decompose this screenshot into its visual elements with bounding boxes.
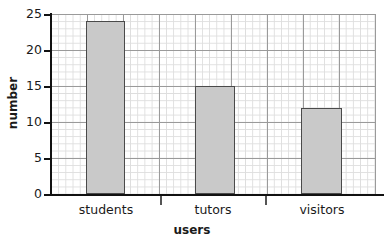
- y-tick-label-20: 20: [2, 44, 42, 56]
- x-category-label-students: students: [60, 202, 152, 217]
- y-tick-label-25: 25: [2, 8, 42, 20]
- bar-chart: 25 20 15 10 5 0 students tutors visitors…: [0, 0, 384, 244]
- y-axis-title: number: [6, 68, 20, 138]
- x-tick-2: [265, 196, 267, 205]
- y-axis-line: [50, 13, 52, 196]
- y-tick-label-5: 5: [2, 152, 42, 164]
- x-axis-line: [44, 194, 384, 196]
- x-tick-1: [160, 196, 162, 205]
- y-tick-20: [44, 50, 51, 52]
- x-category-label-tutors: tutors: [170, 202, 256, 217]
- bar-tutors: [195, 86, 235, 194]
- x-axis-title: users: [0, 223, 384, 237]
- bar-visitors: [301, 108, 342, 194]
- bar-students: [86, 21, 125, 194]
- y-tick-5: [44, 158, 51, 160]
- x-category-label-visitors: visitors: [278, 202, 366, 217]
- plot-area: [51, 14, 376, 194]
- y-tick-label-0: 0: [2, 188, 42, 200]
- chart-title-clipped: [0, 0, 384, 7]
- y-tick-10: [44, 122, 51, 124]
- y-tick-0: [44, 194, 51, 196]
- y-tick-25: [44, 14, 51, 16]
- y-tick-15: [44, 86, 51, 88]
